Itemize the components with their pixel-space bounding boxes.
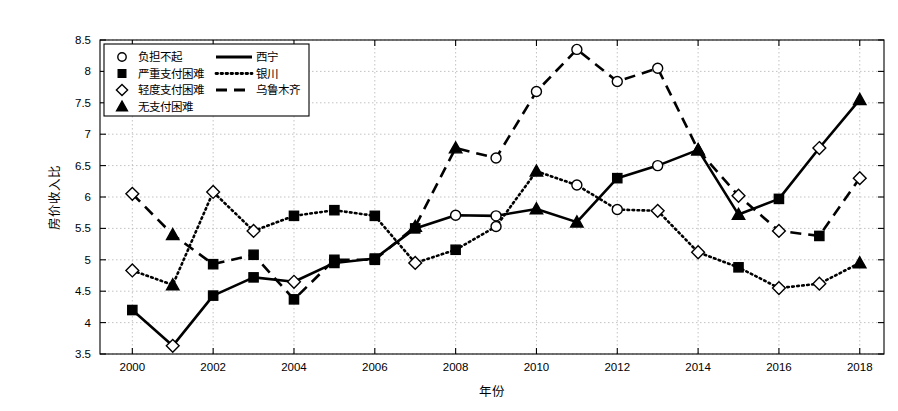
data-point-square-marker	[209, 260, 218, 269]
x-tick-label: 2008	[443, 361, 469, 373]
y-tick-label: 6.5	[75, 160, 91, 172]
x-axis-title: 年份	[479, 385, 505, 399]
data-point-square-marker	[370, 211, 379, 220]
data-point-square-marker	[734, 263, 743, 272]
y-tick-label: 4	[85, 317, 92, 329]
y-tick-label: 7	[85, 128, 91, 140]
y-tick-label: 4.5	[75, 285, 91, 297]
data-point-circle-marker	[612, 205, 622, 215]
data-point-square-marker	[249, 250, 258, 259]
y-tick-label: 7.5	[75, 97, 91, 109]
y-tick-label: 6	[85, 191, 91, 203]
chart-container: 3.544.555.566.577.588.520002002200420062…	[0, 0, 898, 411]
data-point-square-marker	[128, 305, 137, 314]
legend-marker-label: 负担不起	[138, 50, 183, 63]
legend-marker-label: 轻度支付困难	[138, 83, 204, 96]
data-point-circle-marker	[451, 210, 461, 220]
y-tick-label: 5.5	[75, 222, 91, 234]
data-point-circle-marker	[531, 86, 541, 96]
data-point-circle-marker	[491, 153, 501, 163]
data-point-circle-marker	[612, 76, 622, 86]
y-tick-label: 5	[85, 254, 91, 266]
x-tick-label: 2006	[362, 361, 388, 373]
data-point-circle-marker	[572, 44, 582, 54]
legend-box	[104, 44, 309, 116]
data-point-circle-marker	[491, 211, 501, 221]
data-point-circle-marker	[491, 222, 501, 232]
data-point-circle-marker	[572, 180, 582, 190]
data-point-square-marker	[249, 273, 258, 282]
data-point-square-marker	[330, 255, 339, 264]
data-point-circle-marker	[653, 161, 663, 171]
data-point-square-marker	[451, 245, 460, 254]
legend-line-label: 银川	[256, 67, 278, 80]
data-point-square-marker	[330, 206, 339, 215]
data-point-square-marker	[209, 291, 218, 300]
x-tick-label: 2018	[847, 361, 873, 373]
data-point-circle-marker	[653, 63, 663, 73]
x-tick-label: 2016	[766, 361, 792, 373]
legend-line-label: 西宁	[256, 50, 278, 63]
y-tick-label: 3.5	[75, 348, 91, 360]
legend-line-label: 乌鲁木齐	[256, 83, 301, 96]
data-point-square-marker	[289, 211, 298, 220]
y-tick-label: 8.5	[75, 34, 91, 46]
legend-marker-label: 严重支付困难	[138, 67, 204, 80]
x-tick-label: 2012	[604, 361, 630, 373]
data-point-circle-marker	[118, 53, 126, 61]
x-tick-label: 2010	[524, 361, 550, 373]
data-point-square-marker	[118, 70, 126, 78]
legend-marker-label: 无支付困难	[138, 101, 193, 113]
x-tick-label: 2014	[685, 361, 711, 373]
chart-legend: 负担不起严重支付困难轻度支付困难无支付困难西宁银川乌鲁木齐	[104, 44, 309, 116]
x-tick-label: 2000	[120, 361, 146, 373]
house-price-income-ratio-line-chart: 3.544.555.566.577.588.520002002200420062…	[0, 0, 898, 411]
data-point-square-marker	[613, 174, 622, 183]
x-tick-label: 2004	[281, 361, 307, 373]
data-point-square-marker	[370, 255, 379, 264]
data-point-square-marker	[289, 295, 298, 304]
y-tick-label: 8	[85, 65, 91, 77]
data-point-square-marker	[815, 231, 824, 240]
data-point-square-marker	[774, 194, 783, 203]
x-tick-label: 2002	[200, 361, 226, 373]
y-axis-title: 房价收入比	[47, 165, 62, 230]
